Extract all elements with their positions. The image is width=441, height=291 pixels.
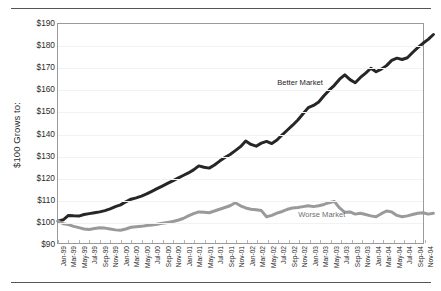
x-axis-tick-label: Jul-03 [343, 246, 350, 264]
x-axis-tick-label: Sep-00 [165, 246, 172, 267]
x-axis-tickmark [131, 240, 132, 243]
gridline [58, 135, 423, 136]
y-axis-tick-label: $110 [21, 195, 55, 205]
y-axis-tick-label: $190 [21, 18, 55, 28]
plot-area [57, 23, 424, 244]
gridline [58, 90, 423, 91]
x-axis-tick-label: Nov-01 [238, 246, 245, 267]
x-axis-tickmark [58, 240, 59, 243]
y-axis-tick-label: $150 [21, 106, 55, 116]
x-axis-tickmark [404, 240, 405, 243]
x-axis-tick-label: Jan-02 [249, 246, 256, 266]
x-axis-tickmark [163, 240, 164, 243]
x-axis-tick-label: Mar-01 [196, 246, 203, 267]
x-axis-tick-label: Jan-99 [60, 246, 67, 266]
top-divider-rule [11, 8, 431, 9]
x-axis-tick-label: May-01 [207, 246, 214, 268]
x-axis-tickmark [89, 240, 90, 243]
x-axis-tick-label: Mar-99 [70, 246, 77, 267]
y-axis-tick-label: $120 [21, 173, 55, 183]
x-axis-tick-label: Mar-02 [259, 246, 266, 267]
x-axis-tickmark [320, 240, 321, 243]
x-axis-tickmark [184, 240, 185, 243]
x-axis-tick-label: Jan-04 [375, 246, 382, 266]
x-axis-tick-label: May-02 [270, 246, 277, 268]
y-axis-tick-label: $180 [21, 40, 55, 50]
x-axis-tick-labels: Jan-99Mar-99May-99Jul-99Sep-99Nov-99Jan-… [57, 246, 424, 290]
x-axis-tick-label: Nov-03 [364, 246, 371, 267]
x-axis-tickmark [341, 240, 342, 243]
x-axis-tickmark [236, 240, 237, 243]
y-axis-tick-label: $90 [21, 239, 55, 249]
x-axis-tickmark [257, 240, 258, 243]
x-axis-tickmark [425, 240, 426, 243]
x-axis-tickmark [310, 240, 311, 243]
x-axis-tick-label: Sep-01 [228, 246, 235, 267]
x-axis-tick-label: Sep-03 [354, 246, 361, 267]
x-axis-tickmark [100, 240, 101, 243]
x-axis-tickmark [194, 240, 195, 243]
gridline [58, 223, 423, 224]
gridline [58, 68, 423, 69]
x-axis-tick-label: Jul-99 [91, 246, 98, 264]
gridline [58, 179, 423, 180]
gridline [58, 112, 423, 113]
y-axis-tick-label: $100 [21, 217, 55, 227]
x-axis-tick-label: Mar-00 [133, 246, 140, 267]
x-axis-tick-label: Jan-03 [312, 246, 319, 266]
gridline [58, 157, 423, 158]
y-axis-tick-label: $170 [21, 62, 55, 72]
x-axis-tick-label: Sep-99 [102, 246, 109, 267]
x-axis-tickmark [205, 240, 206, 243]
y-axis-tick-label: $130 [21, 151, 55, 161]
x-axis-tick-label: Sep-02 [291, 246, 298, 267]
x-axis-tick-label: May-04 [396, 246, 403, 268]
gridline [58, 46, 423, 47]
x-axis-tickmark [121, 240, 122, 243]
annotation-better-market: Better Market [277, 78, 323, 87]
x-axis-tickmark [394, 240, 395, 243]
chart-figure: $100 Grows to: $190$180$170$160$150$140$… [0, 0, 441, 291]
x-axis-tick-label: May-03 [333, 246, 340, 268]
x-axis-tickmark [226, 240, 227, 243]
x-axis-tickmark [415, 240, 416, 243]
x-axis-tickmark [79, 240, 80, 243]
x-axis-tick-label: Sep-04 [417, 246, 424, 267]
x-axis-tick-label: Mar-04 [385, 246, 392, 267]
x-axis-tick-label: May-00 [144, 246, 151, 268]
x-axis-tick-label: Nov-02 [301, 246, 308, 267]
x-axis-tickmark [68, 240, 69, 243]
x-axis-tickmark [362, 240, 363, 243]
y-axis-tick-label: $140 [21, 129, 55, 139]
x-axis-tick-label: Nov-00 [175, 246, 182, 267]
x-axis-tickmark [299, 240, 300, 243]
x-axis-tick-label: Nov-99 [112, 246, 119, 267]
series-line [58, 35, 433, 222]
y-axis-tick-labels: $190$180$170$160$150$140$130$120$110$100… [19, 0, 55, 291]
x-axis-tickmark [247, 240, 248, 243]
x-axis-tickmark [289, 240, 290, 243]
x-axis-tickmark [373, 240, 374, 243]
x-axis-tickmark [110, 240, 111, 243]
x-axis-tick-label: Jan-01 [186, 246, 193, 266]
x-axis-tickmark [383, 240, 384, 243]
series-lines [58, 24, 423, 243]
x-axis-tickmark [152, 240, 153, 243]
y-axis-tick-label: $160 [21, 84, 55, 94]
x-axis-tick-label: Jul-01 [217, 246, 224, 264]
x-axis-tickmark [268, 240, 269, 243]
x-axis-tick-label: Jul-00 [154, 246, 161, 264]
annotation-worse-market: Worse Market [298, 210, 345, 219]
x-axis-tickmark [173, 240, 174, 243]
x-axis-tickmark [331, 240, 332, 243]
x-axis-tick-label: Jan-00 [123, 246, 130, 266]
x-axis-tickmark [142, 240, 143, 243]
x-axis-tick-label: Jul-04 [406, 246, 413, 264]
x-axis-tick-label: May-99 [81, 246, 88, 268]
x-axis-tickmark [278, 240, 279, 243]
gridline [58, 201, 423, 202]
x-axis-tick-label: Jul-02 [280, 246, 287, 264]
x-axis-tick-label: Nov-04 [427, 246, 434, 267]
x-axis-tickmark [215, 240, 216, 243]
x-axis-tickmark [352, 240, 353, 243]
